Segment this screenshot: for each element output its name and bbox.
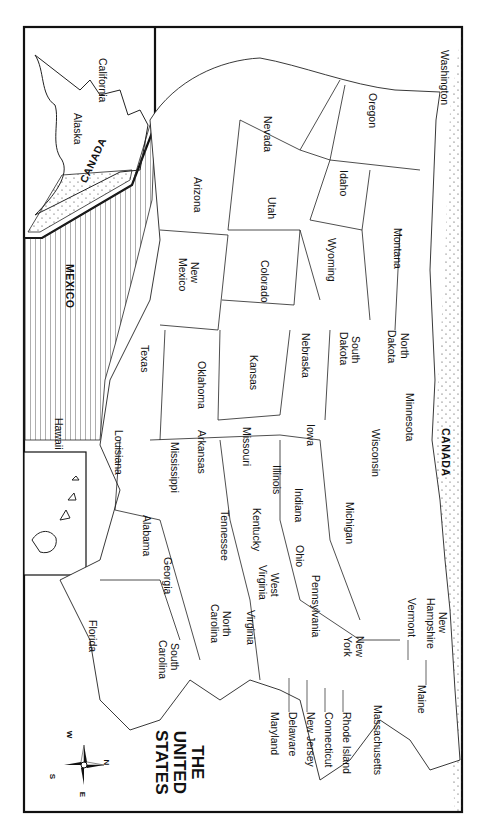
- compass-rose-icon: [60, 740, 108, 790]
- callout-lines: [0, 0, 483, 837]
- compass-n: N: [102, 760, 111, 766]
- compass-w: W: [65, 731, 74, 739]
- map-title: THE UNITED STATES: [152, 730, 206, 795]
- compass-e: E: [78, 792, 87, 797]
- compass-s: S: [48, 774, 57, 779]
